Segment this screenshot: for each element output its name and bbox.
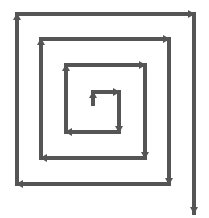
spiral-diagram [0,0,209,218]
end-arrow-down-icon [190,207,198,214]
spiral-arrow-graphic [0,0,209,218]
